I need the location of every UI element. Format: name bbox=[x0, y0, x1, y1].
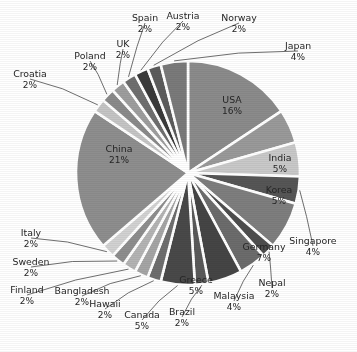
slice-label-pct-norway: 2% bbox=[232, 24, 247, 34]
slice-label-pct-brazil: 2% bbox=[175, 318, 190, 328]
slice-label-name-malaysia: Malaysia bbox=[214, 290, 255, 301]
slice-label-name-uk: UK bbox=[116, 38, 130, 49]
pie-chart: USA16%India5%Korea5%Singapore4%Germany7%… bbox=[0, 0, 357, 352]
slice-label-name-greece: Greece bbox=[179, 274, 213, 285]
slice-label-name-italy: Italy bbox=[21, 227, 42, 238]
slice-label-name-china: China bbox=[106, 143, 133, 154]
slice-label-pct-croatia: 2% bbox=[23, 80, 38, 90]
slice-label-name-germany: Germany bbox=[242, 241, 286, 252]
slice-label-pct-bangladesh: 2% bbox=[75, 297, 90, 307]
slice-label-name-india: India bbox=[268, 152, 291, 163]
pie-chart-svg: USA16%India5%Korea5%Singapore4%Germany7%… bbox=[0, 0, 357, 352]
slice-label-pct-singapore: 4% bbox=[306, 247, 321, 257]
slice-label-name-norway: Norway bbox=[221, 12, 257, 23]
slice-label-pct-india: 5% bbox=[273, 164, 288, 174]
slice-label-name-nepal: Nepal bbox=[258, 277, 285, 288]
slice-label-name-croatia: Croatia bbox=[13, 68, 47, 79]
slice-label-pct-sweden: 2% bbox=[24, 268, 39, 278]
leader-line-italy bbox=[31, 238, 107, 252]
slice-label-name-korea: Korea bbox=[266, 184, 293, 195]
leader-line-croatia bbox=[30, 79, 98, 105]
slice-label-name-bangladesh: Bangladesh bbox=[55, 285, 110, 296]
slice-label-pct-italy: 2% bbox=[24, 239, 39, 249]
slice-label-pct-nepal: 2% bbox=[265, 289, 280, 299]
slice-label-pct-usa: 16% bbox=[222, 106, 242, 116]
slice-label-pct-austria: 2% bbox=[176, 22, 191, 32]
slice-label-name-singapore: Singapore bbox=[289, 235, 337, 246]
slice-label-pct-canada: 5% bbox=[135, 321, 150, 331]
slice-label-pct-hawaii: 2% bbox=[98, 310, 113, 320]
leader-line-japan bbox=[174, 51, 298, 61]
slice-label-pct-china: 21% bbox=[109, 155, 129, 165]
slice-label-name-canada: Canada bbox=[124, 309, 160, 320]
slice-label-name-usa: USA bbox=[222, 94, 242, 105]
slice-label-pct-greece: 5% bbox=[189, 286, 204, 296]
slice-label-name-japan: Japan bbox=[284, 40, 311, 51]
slice-label-name-austria: Austria bbox=[166, 10, 199, 21]
slice-label-pct-korea: 5% bbox=[272, 196, 287, 206]
slice-label-name-hawaii: Hawaii bbox=[89, 298, 120, 309]
slice-label-pct-poland: 2% bbox=[83, 62, 98, 72]
slice-label-name-spain: Spain bbox=[132, 12, 158, 23]
slice-label-pct-spain: 2% bbox=[138, 24, 153, 34]
slice-label-pct-malaysia: 4% bbox=[227, 302, 242, 312]
slice-label-pct-germany: 7% bbox=[257, 253, 272, 263]
slice-label-name-sweden: Sweden bbox=[12, 256, 49, 267]
slice-label-name-poland: Poland bbox=[74, 50, 105, 61]
slice-label-name-brazil: Brazil bbox=[169, 306, 195, 317]
leader-line-norway bbox=[154, 23, 239, 65]
slice-label-pct-finland: 2% bbox=[20, 296, 35, 306]
slice-label-pct-uk: 2% bbox=[116, 50, 131, 60]
slice-label-pct-japan: 4% bbox=[291, 52, 306, 62]
slice-label-name-finland: Finland bbox=[10, 284, 44, 295]
